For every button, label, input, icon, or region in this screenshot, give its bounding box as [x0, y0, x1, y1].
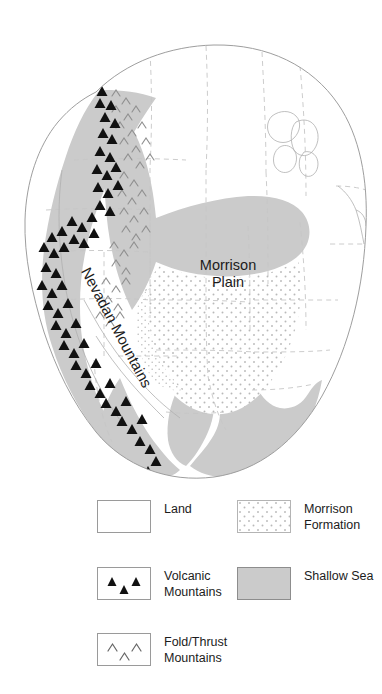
legend-item-morrison-formation: Morrison Formation [237, 500, 382, 533]
legend-item-volcanic-mountains: Volcanic Mountains [97, 567, 237, 600]
legend-column-right: Morrison Formation Shallow Sea [237, 488, 382, 600]
legend-label-volcanic-mountains: Volcanic Mountains [164, 567, 222, 600]
map-label-morrison-plain-line1: Morrison [200, 257, 256, 273]
legend-swatch-volcanic-mountains [97, 567, 151, 600]
legend-swatch-morrison-formation [237, 500, 291, 533]
legend-swatch-fold-thrust-mountains [97, 633, 151, 666]
legend-swatch-shallow-sea [237, 567, 291, 600]
volcano-triangle-icon [98, 568, 151, 600]
chevron-caret-icon [98, 634, 151, 666]
map-legend: Land Volcanic Mountains [0, 488, 382, 694]
legend-label-morrison-formation: Morrison Formation [304, 500, 360, 533]
legend-item-fold-thrust-mountains: Fold/Thrust Mountains [97, 633, 237, 666]
legend-label-fold-thrust-mountains: Fold/Thrust Mountains [164, 633, 227, 666]
legend-label-shallow-sea: Shallow Sea [304, 567, 374, 585]
legend-item-land: Land [97, 500, 237, 533]
map-label-morrison-plain-line2: Plain [212, 274, 244, 290]
legend-item-shallow-sea: Shallow Sea [237, 567, 382, 600]
legend-label-land: Land [164, 500, 192, 518]
legend-swatch-land [97, 500, 151, 533]
stipple-dots-icon [238, 501, 291, 533]
legend-column-left: Land Volcanic Mountains [97, 488, 237, 666]
map-body [0, 0, 382, 500]
